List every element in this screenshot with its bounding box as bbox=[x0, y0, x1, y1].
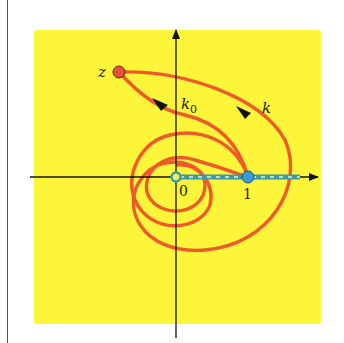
complex-plane-diagram: z k0 k 0 1 bbox=[0, 0, 344, 343]
label-k: k bbox=[262, 99, 271, 117]
point-z bbox=[113, 66, 125, 78]
label-k0-main: k bbox=[181, 95, 190, 113]
point-origin bbox=[172, 173, 181, 182]
point-one bbox=[242, 171, 254, 183]
label-zero: 0 bbox=[179, 183, 188, 199]
label-z: z bbox=[97, 63, 106, 81]
label-one: 1 bbox=[243, 186, 252, 202]
label-k0-subscript: 0 bbox=[190, 103, 197, 116]
